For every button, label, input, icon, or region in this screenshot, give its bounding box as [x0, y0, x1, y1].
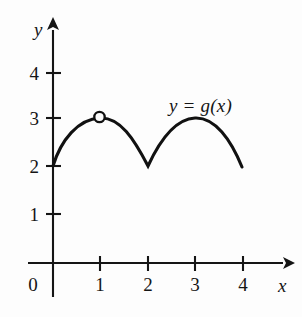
y-axis-label: y: [34, 20, 42, 39]
x-axis-label: x: [278, 276, 286, 295]
x-tick-label-4: 4: [233, 275, 253, 294]
y-tick-label-2: 2: [21, 157, 39, 176]
graph-figure: 4 3 2 1 0 1 2 3 4 y x y = g(x): [0, 0, 302, 317]
axis-lines: [28, 17, 295, 297]
curve-equation-label: y = g(x): [169, 96, 232, 115]
graph-canvas: [0, 0, 302, 317]
function-curve-g: [53, 118, 242, 167]
x-tick-label-0: 0: [23, 275, 43, 294]
x-tick-label-1: 1: [90, 275, 110, 294]
y-tick-label-4: 4: [21, 64, 39, 83]
x-tick-label-3: 3: [185, 275, 205, 294]
y-tick-label-3: 3: [21, 109, 39, 128]
x-tick-label-2: 2: [138, 275, 158, 294]
y-tick-label-1: 1: [21, 205, 39, 224]
open-circle-point-icon: [94, 112, 104, 122]
y-axis-arrow-icon: [47, 17, 59, 30]
x-axis-arrow-icon: [283, 257, 295, 269]
